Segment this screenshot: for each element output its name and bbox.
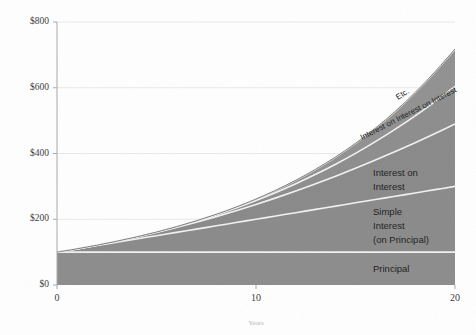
compound-interest-area-chart: $0$200$400$600$800 01020 Years Principal… (0, 0, 476, 335)
paper-grain-overlay (0, 0, 476, 335)
chart-canvas: $0$200$400$600$800 01020 Years Principal… (0, 0, 476, 335)
